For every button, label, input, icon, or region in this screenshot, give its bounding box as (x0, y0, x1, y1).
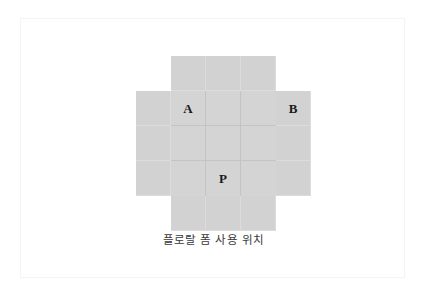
center-cell-r3c1 (171, 161, 206, 196)
wing-left-cell-3 (136, 161, 171, 196)
center-cell-r3c3 (241, 161, 276, 196)
wing-top (171, 56, 276, 91)
cell-label-a: A (183, 102, 192, 115)
wing-top-cell-1 (171, 56, 206, 91)
wing-bottom-cell-3 (241, 196, 276, 231)
figure-card: A (20, 18, 405, 278)
wing-top-cell-2 (206, 56, 241, 91)
center-cell-r2c1 (171, 126, 206, 161)
wing-bottom-cell-2 (206, 196, 241, 231)
cell-label-b: B (289, 102, 298, 115)
wing-left-cell-1 (136, 91, 171, 126)
center-grid: A (171, 91, 276, 196)
wing-right-cell-1: B (276, 91, 311, 126)
wing-right-cell-3 (276, 161, 311, 196)
center-cell-r1c3 (241, 91, 276, 126)
cross-shape: A (116, 64, 311, 231)
wing-left (136, 91, 171, 196)
center-cell-r3c2: P (206, 161, 241, 196)
wing-right-cell-2 (276, 126, 311, 161)
center-cell-r1c1: A (171, 91, 206, 126)
cell-label-p: P (219, 172, 227, 185)
wing-bottom (171, 196, 276, 231)
center-cell-r1c2 (206, 91, 241, 126)
wing-left-cell-2 (136, 126, 171, 161)
center-cell-r2c2 (206, 126, 241, 161)
wing-top-cell-3 (241, 56, 276, 91)
cross-grid-diagram: A (21, 19, 406, 224)
wing-right: B (276, 91, 311, 196)
figure-caption: 플로랄 폼 사용 위치 (21, 231, 406, 247)
center-cell-r2c3 (241, 126, 276, 161)
wing-bottom-cell-1 (171, 196, 206, 231)
